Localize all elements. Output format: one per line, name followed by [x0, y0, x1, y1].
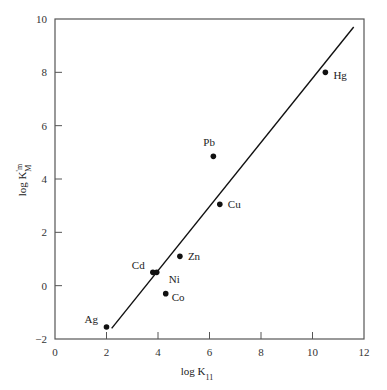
y-tick-label: 4 [42, 173, 48, 185]
data-point [217, 202, 223, 208]
point-label: Pb [203, 136, 215, 148]
point-label: Cu [228, 198, 241, 210]
x-axis-label: log K11 [181, 365, 213, 382]
x-tick-label: 6 [207, 346, 213, 358]
data-point [177, 254, 183, 260]
point-label: Hg [333, 69, 347, 81]
scatter-chart: 024681012−20246810 AgCdNiZnCoCuPbHg log … [0, 0, 387, 390]
y-tick-label: 0 [42, 280, 48, 292]
point-label: Co [172, 291, 185, 303]
y-tick-label: 2 [42, 226, 48, 238]
x-tick-label: 8 [258, 346, 264, 358]
x-tick-label: 12 [359, 346, 370, 358]
fit-line [112, 27, 354, 328]
point-label: Cd [132, 259, 145, 271]
point-label: Ni [169, 273, 180, 285]
data-point [163, 291, 169, 297]
y-tick-label: −2 [35, 333, 47, 345]
x-tick-label: 0 [52, 346, 58, 358]
data-point [154, 270, 160, 276]
y-tick-label: 8 [42, 66, 48, 78]
x-tick-label: 10 [307, 346, 319, 358]
data-point [104, 324, 110, 330]
y-axis-label: log K'mM [15, 163, 33, 196]
x-tick-label: 2 [104, 346, 110, 358]
y-tick-label: 6 [42, 120, 48, 132]
y-tick-label: 10 [36, 13, 48, 25]
plot-frame [55, 19, 364, 339]
x-tick-label: 4 [155, 346, 161, 358]
point-label: Zn [188, 250, 201, 262]
data-point [211, 154, 217, 160]
data-point [323, 70, 329, 76]
point-label: Ag [85, 313, 99, 325]
axis-ticks: 024681012−20246810 [35, 13, 369, 358]
